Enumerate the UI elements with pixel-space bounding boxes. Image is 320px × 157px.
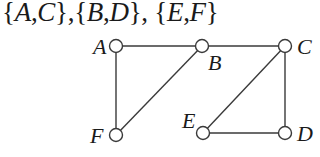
- node-e: [197, 127, 210, 140]
- node-label-d: D: [296, 121, 313, 146]
- node-f: [110, 129, 123, 142]
- node-label-f: F: [89, 123, 104, 148]
- node-label-c: C: [297, 34, 312, 59]
- node-label-e: E: [181, 108, 196, 133]
- graph-diagram: ABCFED: [0, 0, 320, 157]
- node-label-a: A: [91, 34, 107, 59]
- node-b: [196, 40, 209, 53]
- node-a: [110, 40, 123, 53]
- node-c: [279, 40, 292, 53]
- node-label-b: B: [208, 50, 221, 75]
- node-d: [279, 127, 292, 140]
- graph-nodes: [110, 40, 292, 142]
- graph-edges: [116, 46, 285, 135]
